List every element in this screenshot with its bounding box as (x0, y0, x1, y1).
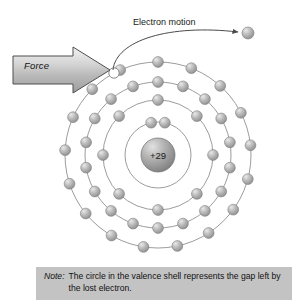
electron (114, 111, 125, 122)
electron (153, 77, 164, 88)
electron (138, 241, 149, 252)
electron (80, 208, 91, 219)
electron (106, 94, 117, 105)
electron (153, 95, 164, 106)
electron (245, 140, 256, 151)
electron (172, 241, 183, 252)
atom-diagram: +29 (0, 0, 305, 307)
note-label: Note: (44, 271, 65, 281)
electron (224, 137, 235, 148)
electron (89, 113, 100, 124)
electron (215, 80, 226, 91)
electron (153, 57, 164, 68)
electron (114, 188, 125, 199)
electron (106, 230, 117, 241)
electron (186, 63, 197, 74)
electron (60, 145, 71, 156)
electron (98, 150, 109, 161)
electron (200, 94, 211, 105)
electron (68, 112, 79, 123)
electron (153, 205, 164, 216)
electron (191, 111, 202, 122)
note-text: The circle in the valence shell represen… (69, 271, 286, 294)
electron (81, 162, 92, 173)
free-electron (242, 27, 254, 39)
electron (128, 218, 139, 229)
electron (224, 162, 235, 173)
nucleus-charge-label: +29 (150, 150, 166, 161)
electron (153, 223, 164, 234)
valence-gap-circle (109, 68, 119, 78)
electron (106, 206, 117, 217)
electron (191, 188, 202, 199)
electron (216, 186, 227, 197)
electron (235, 107, 246, 118)
electron (159, 117, 170, 128)
force-label: Force (24, 61, 49, 71)
electron (178, 81, 189, 92)
note-box: Note: The circle in the valence shell re… (36, 267, 292, 300)
electron (200, 206, 211, 217)
electron (128, 81, 139, 92)
electron (89, 186, 100, 197)
electron (228, 204, 239, 215)
electron (208, 150, 219, 161)
electron (216, 113, 227, 124)
nucleus: +29 (141, 138, 175, 172)
electron-motion-label: Electron motion (133, 18, 196, 27)
electron (242, 174, 253, 185)
electron (203, 228, 214, 239)
electron (146, 117, 157, 128)
electron (87, 84, 98, 95)
figure-canvas: +29 Electron motion Force Note: The circ… (0, 0, 305, 307)
electron (64, 178, 75, 189)
electron (178, 218, 189, 229)
electron (81, 137, 92, 148)
